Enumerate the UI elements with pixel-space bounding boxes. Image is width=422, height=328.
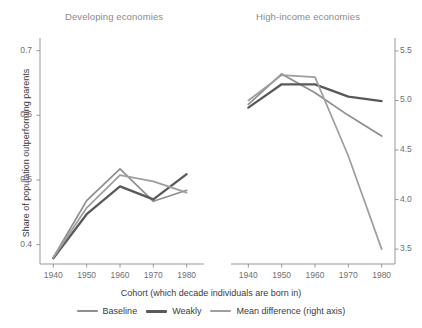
x-tick-high-income-1970: 1970 [333,270,363,280]
x-tick-high-income-1980: 1980 [367,270,397,280]
y-tick-right-5.5: 5.5 [400,45,422,55]
x-tick-high-income-1950: 1950 [267,270,297,280]
chart-legend: BaselineWeaklyMean difference (right axi… [0,306,422,316]
series-line-high-income-1 [248,84,381,107]
x-tick-high-income-1960: 1960 [300,270,330,280]
x-tick-developing-1970: 1970 [138,270,168,280]
legend-swatch-0 [77,310,98,312]
legend-label-2: Mean difference (right axis) [236,306,345,316]
y-tick-left-0.4: 0.4 [6,239,32,249]
x-tick-developing-1940: 1940 [38,270,68,280]
legend-label-1: Weakly [172,306,201,316]
legend-item-2[interactable]: Mean difference (right axis) [210,306,345,316]
y-tick-right-3.5: 3.5 [400,243,422,253]
series-line-developing-0 [53,169,186,258]
legend-item-1[interactable]: Weakly [146,306,201,316]
y-tick-right-4.0: 4.0 [400,194,422,204]
legend-swatch-2 [210,310,231,312]
y-tick-right-5.0: 5.0 [400,94,422,104]
chart-container: Developing economies High-income economi… [0,0,422,328]
legend-swatch-1 [146,310,167,313]
y-tick-left-0.6: 0.6 [6,109,32,119]
legend-item-0[interactable]: Baseline [77,306,138,316]
x-tick-high-income-1940: 1940 [233,270,263,280]
x-tick-developing-1960: 1960 [105,270,135,280]
series-line-high-income-2 [248,75,381,249]
x-tick-developing-1950: 1950 [72,270,102,280]
legend-label-0: Baseline [103,306,138,316]
y-tick-left-0.5: 0.5 [6,174,32,184]
x-tick-developing-1980: 1980 [172,270,202,280]
y-tick-right-4.5: 4.5 [400,144,422,154]
y-tick-left-0.7: 0.7 [6,45,32,55]
